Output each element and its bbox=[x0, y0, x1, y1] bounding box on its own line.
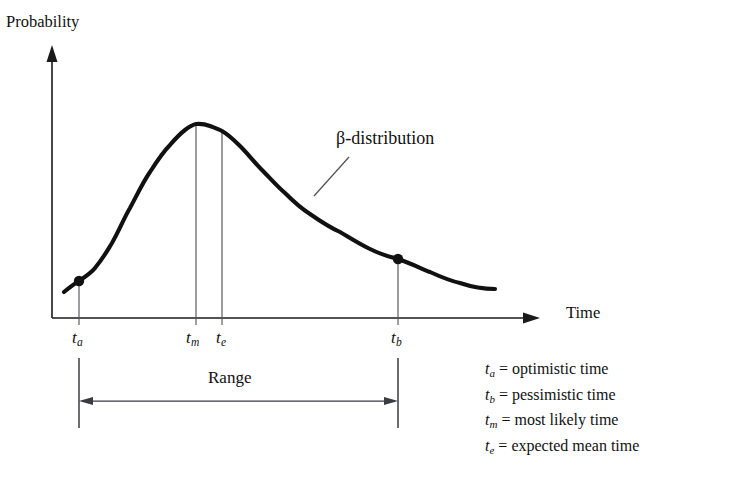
legend-symbol-sub-ta: a bbox=[489, 367, 495, 379]
legend-text-te: expected mean time bbox=[511, 437, 639, 454]
x-axis bbox=[52, 313, 540, 324]
tick-label-te: te bbox=[216, 329, 226, 346]
curve-label-leader-line bbox=[314, 157, 349, 196]
legend-symbol-sub-tm: m bbox=[489, 418, 497, 430]
y-axis bbox=[47, 45, 58, 318]
beta-distribution-curve bbox=[64, 124, 495, 292]
legend-row-tm: tm = most likely time bbox=[485, 408, 639, 434]
beta-distribution-figure: Probability Time β-distribution Range ta… bbox=[0, 0, 738, 503]
marker-tb bbox=[393, 254, 403, 264]
legend-row-tb: tb = pessimistic time bbox=[485, 383, 639, 409]
tick-label-ta: ta bbox=[72, 329, 82, 346]
x-axis-title: Time bbox=[566, 305, 600, 322]
legend-symbol-sub-te: e bbox=[489, 444, 494, 456]
legend-equals-ta: = bbox=[499, 360, 508, 377]
range-arrow-left-head bbox=[79, 397, 93, 405]
y-axis-title: Probability bbox=[6, 14, 79, 31]
legend-symbol-tm: tm bbox=[485, 411, 497, 428]
legend: ta = optimistic time tb = pessimistic ti… bbox=[485, 357, 639, 459]
legend-text-tb: pessimistic time bbox=[512, 386, 616, 403]
legend-equals-te: = bbox=[498, 437, 507, 454]
range-arrow-right-head bbox=[384, 397, 398, 405]
tick-sub-te: e bbox=[221, 336, 226, 348]
tick-label-tm: tm bbox=[186, 329, 199, 346]
legend-symbol-te: te bbox=[485, 437, 494, 454]
tick-sub-tm: m bbox=[191, 336, 199, 348]
legend-row-te: te = expected mean time bbox=[485, 434, 639, 460]
legend-text-tm: most likely time bbox=[514, 411, 618, 428]
curve-label: β-distribution bbox=[336, 129, 434, 147]
legend-text-ta: optimistic time bbox=[512, 360, 608, 377]
drop-lines bbox=[79, 124, 398, 325]
marker-ta bbox=[74, 276, 84, 286]
legend-symbol-sub-tb: b bbox=[489, 393, 495, 405]
tick-sub-tb: b bbox=[396, 336, 402, 348]
curve-point-markers bbox=[74, 254, 403, 286]
legend-row-ta: ta = optimistic time bbox=[485, 357, 639, 383]
tick-sub-ta: a bbox=[77, 336, 83, 348]
legend-equals-tm: = bbox=[501, 411, 510, 428]
tick-label-tb: tb bbox=[391, 329, 401, 346]
legend-symbol-ta: ta bbox=[485, 360, 495, 377]
legend-equals-tb: = bbox=[499, 386, 508, 403]
range-label: Range bbox=[208, 369, 251, 386]
legend-symbol-tb: tb bbox=[485, 386, 495, 403]
